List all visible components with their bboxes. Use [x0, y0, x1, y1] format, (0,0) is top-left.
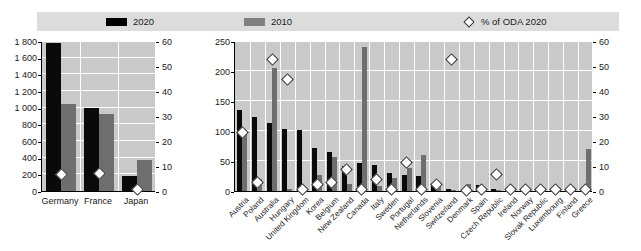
- y-axis-right-tick: [593, 42, 596, 43]
- y-axis-right-tick: [593, 67, 596, 68]
- y-axis-tick: [231, 162, 234, 163]
- bar-2010: [347, 184, 352, 191]
- pct-oda-diamond-marker: [281, 73, 294, 86]
- bar-2010: [377, 186, 382, 191]
- bar-group: [237, 110, 247, 191]
- y-axis-right-tick: [156, 67, 159, 68]
- bar-2010: [287, 189, 292, 191]
- x-axis-category-label: Germany: [41, 197, 79, 206]
- y-axis-right-tick-label: 40: [162, 88, 172, 97]
- bar-group: [491, 189, 501, 191]
- y-axis-right-tick-label: 30: [599, 113, 609, 122]
- y-axis-right-tick-label: 50: [599, 63, 609, 72]
- y-axis-tick: [38, 142, 41, 143]
- y-axis-right-tick-label: 30: [162, 113, 172, 122]
- y-axis-tick: [38, 109, 41, 110]
- gridline-vertical: [354, 42, 355, 191]
- y-axis-tick-label: 250: [200, 38, 230, 47]
- gridline-vertical: [474, 42, 475, 191]
- x-axis-category-label: France: [79, 197, 117, 206]
- legend-item-2010: 2010: [244, 12, 292, 31]
- pct-oda-diamond-marker: [266, 53, 279, 66]
- y-axis-tick-label: 1 800: [0, 38, 37, 47]
- y-axis-tick: [38, 92, 41, 93]
- y-axis-tick-label: 100: [200, 128, 230, 137]
- right-plot-area: [234, 42, 592, 192]
- gridline-vertical: [280, 42, 281, 191]
- gray-square-swatch-icon: [244, 18, 265, 26]
- gridline-vertical: [399, 42, 400, 191]
- gridline-vertical: [80, 42, 81, 191]
- y-axis-tick: [231, 192, 234, 193]
- legend-label: 2010: [271, 17, 292, 27]
- bar-2020: [46, 43, 61, 191]
- y-axis-tick-label: 150: [200, 98, 230, 107]
- y-axis-tick: [38, 125, 41, 126]
- y-axis-tick: [38, 192, 41, 193]
- y-axis-right-tick: [593, 92, 596, 93]
- y-axis-tick-label: 800: [0, 121, 37, 130]
- y-axis-tick-label: 400: [0, 154, 37, 163]
- right-chart-panel: 0501001502002500102030405060AustriaPolan…: [200, 36, 641, 251]
- gridline: [42, 40, 155, 41]
- bar-2010: [496, 190, 501, 191]
- y-axis-right-tick: [156, 192, 159, 193]
- y-axis-right-tick-label: 20: [599, 138, 609, 147]
- y-axis-tick: [231, 102, 234, 103]
- bar-2010: [272, 68, 277, 191]
- gridline-vertical: [518, 42, 519, 191]
- y-axis-right-tick-label: 20: [162, 138, 172, 147]
- y-axis-right-tick: [593, 117, 596, 118]
- gridline-vertical: [118, 42, 119, 191]
- gridline-vertical: [414, 42, 415, 191]
- y-axis-right-tick-label: 10: [162, 163, 172, 172]
- y-axis-right-tick: [156, 42, 159, 43]
- legend-item-2020: 2020: [106, 12, 154, 31]
- x-axis-category-label: Japan: [117, 197, 155, 206]
- bar-group: [267, 68, 277, 191]
- y-axis-right-tick: [593, 142, 596, 143]
- bar-group: [282, 129, 292, 191]
- y-axis-tick-label: 200: [200, 68, 230, 77]
- bar-group: [446, 189, 456, 191]
- pct-oda-diamond-marker: [520, 183, 533, 196]
- y-axis-right-tick: [156, 92, 159, 93]
- pct-oda-diamond-marker: [445, 53, 458, 66]
- y-axis-tick: [38, 159, 41, 160]
- left-chart-panel: 02004006008001 0001 2001 4001 6001 80001…: [0, 36, 197, 251]
- gridline-vertical: [310, 42, 311, 191]
- gridline-vertical: [369, 42, 370, 191]
- y-axis-right-tick-label: 40: [599, 88, 609, 97]
- bar-2020: [297, 130, 302, 191]
- gridline-vertical: [325, 42, 326, 191]
- left-plot-area: [41, 42, 155, 192]
- pct-oda-diamond-marker: [490, 168, 503, 181]
- gridline-vertical: [265, 42, 266, 191]
- bar-2020: [84, 108, 99, 191]
- y-axis-tick: [38, 175, 41, 176]
- bar-2010: [451, 190, 456, 191]
- y-axis-tick: [231, 132, 234, 133]
- y-axis-tick-label: 1 400: [0, 71, 37, 80]
- y-axis-right-tick: [156, 117, 159, 118]
- y-axis-right-tick: [593, 192, 596, 193]
- y-axis-right-tick-label: 0: [599, 188, 604, 197]
- gridline-vertical: [533, 42, 534, 191]
- y-axis-right-tick-label: 60: [162, 38, 172, 47]
- y-axis-right-tick: [593, 167, 596, 168]
- bar-2010: [362, 47, 367, 191]
- y-axis-tick: [38, 42, 41, 43]
- gridline-vertical: [295, 42, 296, 191]
- bar-group: [402, 168, 412, 191]
- legend-item-pct-oda: % of ODA 2020: [459, 12, 546, 31]
- gridline-vertical: [459, 42, 460, 191]
- y-axis-tick-label: 50: [200, 158, 230, 167]
- y-axis-tick-label: 600: [0, 138, 37, 147]
- y-axis-right-tick-label: 10: [599, 163, 609, 172]
- y-axis-tick-label: 0: [200, 188, 230, 197]
- y-axis-tick-label: 1 200: [0, 88, 37, 97]
- bar-group: [357, 47, 367, 191]
- pct-oda-diamond-marker: [400, 156, 413, 169]
- gridline-vertical: [384, 42, 385, 191]
- gridline-vertical: [504, 42, 505, 191]
